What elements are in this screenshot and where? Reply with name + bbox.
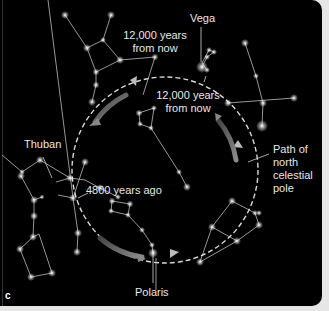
path-arrow-icon <box>170 249 179 258</box>
label-path-of-north-celestial-pole: Path of north celestial pole <box>273 143 313 195</box>
precession-direction-arrows <box>95 95 236 257</box>
star-chart-panel: Vega 12,000 years from now 12,000 years … <box>0 0 322 306</box>
label-4800-years-ago: 4800 years ago <box>86 184 162 197</box>
panel-letter: c <box>5 290 11 301</box>
label-12000-years-top: 12,000 years from now <box>115 29 195 55</box>
label-polaris: Polaris <box>135 286 169 299</box>
path-arrow-icon <box>130 76 137 86</box>
label-vega: Vega <box>190 12 215 25</box>
label-thuban: Thuban <box>24 138 61 151</box>
label-12000-years-mid: 12,000 years from now <box>148 89 228 115</box>
